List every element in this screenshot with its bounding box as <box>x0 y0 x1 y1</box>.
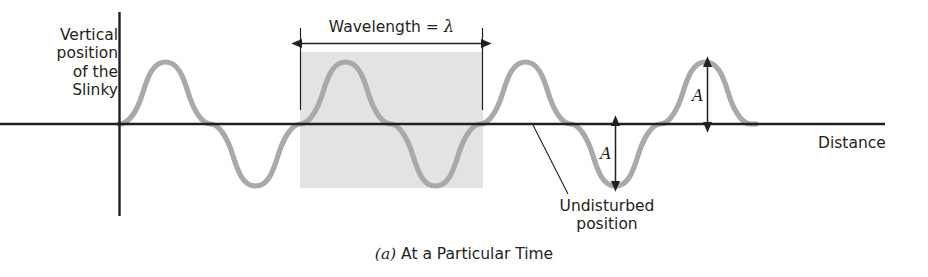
wavelength-annotation-text: Wavelength = <box>329 18 444 36</box>
caption-part-label: (a) <box>375 245 396 263</box>
figure-caption: (a) At a Particular Time <box>0 245 928 263</box>
amplitude-label-crest: A <box>692 86 704 105</box>
amplitude-label-trough: A <box>600 144 612 163</box>
caption-text: At a Particular Time <box>396 245 553 263</box>
undisturbed-leader-line <box>533 125 568 194</box>
wave-diagram-canvas <box>0 0 928 277</box>
undisturbed-position-label: Undisturbed position <box>527 197 687 234</box>
x-axis-label: Distance <box>818 134 886 152</box>
wavelength-annotation-label: Wavelength = λ <box>300 17 483 36</box>
y-axis-label: Vertical position of the Slinky <box>8 26 118 99</box>
wave-diagram-figure: Vertical position of the Slinky Waveleng… <box>0 0 928 277</box>
lambda-symbol: λ <box>444 17 454 36</box>
